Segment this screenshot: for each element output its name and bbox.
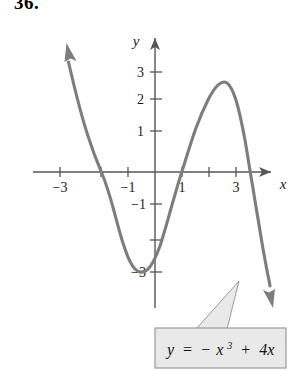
function-curve-group	[65, 43, 276, 308]
eq-term-2: 4x	[259, 341, 274, 358]
y-axis-label: y	[131, 33, 140, 49]
eq-lhs: y	[165, 341, 175, 359]
y-tick-label--1: −1	[131, 197, 146, 212]
eq-plus: +	[241, 341, 250, 358]
eq-minus: −	[201, 341, 210, 358]
x-tick-label--1: −1	[121, 180, 136, 195]
x-tick-label-3: 3	[233, 180, 240, 195]
x-axis-label: x	[279, 176, 287, 192]
graph-plot: y x −3 −1 1 3 3 2 1 −1 −3	[0, 0, 301, 371]
eq-equals: =	[183, 341, 192, 358]
y-tick-label-1: 1	[137, 124, 144, 139]
y-tick-label-2: 2	[137, 92, 144, 107]
figure-container: 36.	[0, 0, 301, 371]
eq-exponent: 3	[226, 340, 232, 351]
curve-arrowhead-lower-right	[263, 289, 275, 308]
y-tick-label-3: 3	[137, 65, 144, 80]
eq-x-base: x	[215, 341, 223, 358]
x-tick-label--3: −3	[53, 180, 68, 195]
curve-arrowhead-upper-left	[65, 43, 77, 62]
callout-pointer	[196, 281, 239, 329]
cubic-curve	[69, 62, 271, 286]
